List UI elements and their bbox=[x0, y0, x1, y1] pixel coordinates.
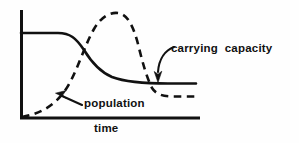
x-axis-label-time: time bbox=[94, 122, 118, 134]
carrying-capacity-label: carrying capacity bbox=[171, 42, 272, 54]
population-label: population bbox=[84, 97, 145, 109]
figure-background bbox=[0, 0, 299, 143]
population-carrying-capacity-diagram bbox=[0, 0, 299, 143]
